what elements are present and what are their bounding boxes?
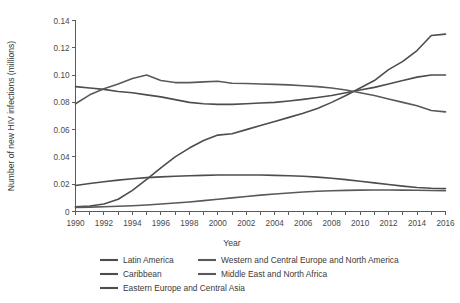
x-tick-label: 1994: [123, 219, 142, 228]
x-tick-label: 2000: [209, 219, 228, 228]
y-axis-tick-group: 00.020.040.060.080.100.120.14: [54, 17, 76, 217]
y-tick-label: 0.14: [54, 17, 70, 26]
x-tick-label: 2014: [408, 219, 427, 228]
series-line-western-and-central-europe-and-north-america: [76, 75, 446, 112]
y-tick-label: 0.06: [54, 126, 70, 135]
series-line-caribbean: [76, 175, 446, 189]
legend-label-latin-america: Latin America: [123, 255, 174, 265]
x-tick-label: 2008: [323, 219, 342, 228]
legend-label-eastern-europe-and-central-asia: Eastern Europe and Central Asia: [123, 283, 245, 293]
chart-legend: Latin AmericaWestern and Central Europe …: [100, 255, 399, 293]
legend-label-caribbean: Caribbean: [123, 269, 162, 279]
series-line-eastern-europe-and-central-asia: [76, 34, 446, 207]
y-tick-label: 0.10: [54, 71, 70, 80]
series-line-middle-east-and-north-africa: [76, 190, 446, 207]
x-tick-label: 2006: [294, 219, 313, 228]
legend-label-western-and-central-europe-and-north-america: Western and Central Europe and North Ame…: [221, 255, 399, 265]
x-tick-label: 1998: [180, 219, 199, 228]
legend-label-middle-east-and-north-africa: Middle East and North Africa: [221, 269, 327, 279]
y-tick-label: 0.04: [54, 153, 70, 162]
x-tick-label: 2012: [379, 219, 398, 228]
x-tick-label: 1996: [152, 219, 171, 228]
x-axis-title: Year: [223, 238, 241, 248]
series-lines-group: [76, 34, 446, 207]
x-tick-label: 2004: [266, 219, 285, 228]
x-axis-tick-group: 1990199219941996199820002002200420062008…: [66, 212, 455, 228]
x-tick-label: 1990: [66, 219, 85, 228]
y-axis-title: Number of new HIV infections (millions): [6, 41, 16, 192]
y-tick-label: 0.02: [54, 180, 70, 189]
chart-figure: 00.020.040.060.080.100.120.14 1990199219…: [0, 0, 460, 303]
x-tick-label: 1992: [95, 219, 114, 228]
x-tick-label: 2010: [351, 219, 370, 228]
x-tick-label: 2016: [436, 219, 455, 228]
x-tick-label: 2002: [237, 219, 256, 228]
y-tick-label: 0.12: [54, 44, 70, 53]
y-tick-label: 0.08: [54, 98, 70, 107]
hiv-infections-line-chart: 00.020.040.060.080.100.120.14 1990199219…: [0, 0, 460, 303]
y-tick-label: 0: [65, 208, 70, 217]
